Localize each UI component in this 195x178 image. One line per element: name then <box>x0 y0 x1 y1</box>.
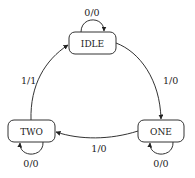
self-loop-arrow-icon <box>81 20 104 32</box>
state-idle-label: IDLE <box>81 39 104 49</box>
transition-label: 0/0 <box>84 7 99 18</box>
transition-idle-idle: 0/0 <box>81 7 104 32</box>
arc-arrow-icon <box>116 43 161 119</box>
transition-idle-one: 1/0 <box>116 43 178 119</box>
state-two: TWO <box>8 120 55 142</box>
transition-label: 1/0 <box>91 143 106 154</box>
transition-one-one: 0/0 <box>150 142 173 169</box>
state-idle: IDLE <box>69 32 116 54</box>
transition-two-two: 0/0 <box>20 142 43 169</box>
state-two-label: TWO <box>20 127 43 137</box>
arc-arrow-icon <box>31 45 68 120</box>
state-one-label: ONE <box>150 127 172 137</box>
transition-label: 0/0 <box>153 158 168 169</box>
self-loop-arrow-icon <box>20 142 43 154</box>
arc-arrow-icon <box>56 131 138 138</box>
transition-label: 0/0 <box>23 158 38 169</box>
transition-label: 1/1 <box>21 75 36 86</box>
transition-two-idle: 1/1 <box>21 45 68 120</box>
self-loop-arrow-icon <box>150 142 173 154</box>
transition-label: 1/0 <box>163 75 178 86</box>
transition-one-two: 1/0 <box>56 131 138 154</box>
state-one: ONE <box>138 120 184 142</box>
state-diagram: IDLE TWO ONE 0/0 1/0 0/0 1/0 0/0 1/1 <box>0 0 195 178</box>
